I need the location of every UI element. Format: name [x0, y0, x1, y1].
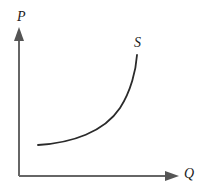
supply-curve-figure: P Q S	[0, 0, 206, 193]
horizontal-axis-arrowhead-icon	[165, 171, 179, 181]
supply-curve-line	[38, 55, 137, 145]
vertical-axis-arrowhead-icon	[14, 27, 24, 41]
figure-canvas	[0, 0, 206, 193]
vertical-axis-label-price: P	[17, 10, 26, 24]
supply-curve-label: S	[134, 36, 141, 50]
horizontal-axis-label-quantity: Q	[184, 167, 194, 181]
